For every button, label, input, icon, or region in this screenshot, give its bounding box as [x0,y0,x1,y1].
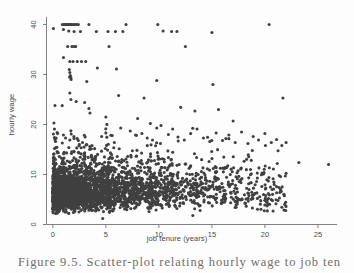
data-markers [51,23,330,220]
scatter-plot: 0510152025 010203040 job tenure (years) … [0,0,354,248]
y-tick-label: 30 [28,66,37,82]
figure-container: 0510152025 010203040 job tenure (years) … [0,0,354,273]
scatter-canvas [0,0,354,248]
y-tick-label: 10 [28,166,37,182]
y-tick-label: 0 [28,216,37,232]
y-axis-title: hourly wage [7,75,16,155]
y-tick-label: 20 [28,116,37,132]
y-tick-label: 40 [28,16,37,32]
x-axis-ticks [53,225,318,229]
figure-caption: Figure 9.5. Scatter-plot relating hourly… [18,255,348,273]
x-axis-title: job tenure (years) [0,234,354,243]
y-axis-ticks [43,25,47,225]
